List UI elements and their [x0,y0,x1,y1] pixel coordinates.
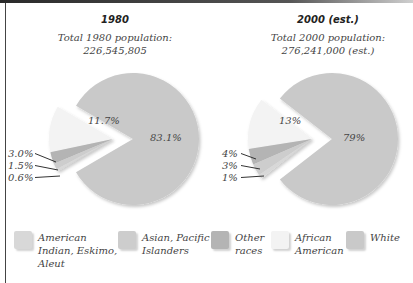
pie-1980: 83.1%11.7%3.0%1.5%0.6% [8,73,199,205]
label-african-american-pct: 13% [279,115,301,126]
label-asian-pacific-pct: 1.5% [8,160,33,171]
label-white-pct: 83.1% [150,132,182,143]
label-white-pct: 79% [343,132,365,143]
label-other-races-pct: 3.0% [8,148,33,159]
legend-label: White [370,231,400,244]
legend-label: American Indian, Eskimo, Aleut [38,231,117,270]
legend-label: Other races [235,231,264,257]
legend-swatch [118,231,136,249]
legend-swatch [211,231,229,249]
leader-line [35,176,60,178]
pie-2000: 79%13%4%3%1% [221,73,398,205]
legend-item-asian-pacific: Asian, Pacific Islanders [118,231,210,257]
legend-item-other-races: Other races [211,231,264,257]
legend-item-american-indian: American Indian, Eskimo, Aleut [14,231,117,270]
legend: American Indian, Eskimo, Aleut Asian, Pa… [14,231,409,283]
leader-line [35,166,58,171]
label-asian-pacific-pct: 3% [222,160,238,171]
legend-item-african-american: African American [271,231,344,257]
label-american-indian-pct: 1% [222,172,238,183]
legend-swatch [346,231,364,249]
legend-swatch [14,231,32,249]
legend-swatch [271,231,289,249]
legend-label: African American [295,231,344,257]
label-american-indian-pct: 0.6% [8,172,33,183]
legend-label: Asian, Pacific Islanders [142,231,210,257]
label-other-races-pct: 4% [221,148,238,159]
legend-item-white: White [346,231,400,249]
label-african-american-pct: 11.7% [88,115,120,126]
